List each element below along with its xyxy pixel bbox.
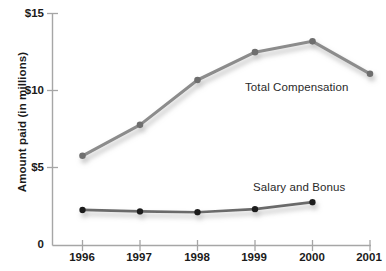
data-point bbox=[137, 122, 144, 129]
data-point bbox=[79, 207, 85, 213]
series-line-total-compensation bbox=[83, 41, 371, 155]
series-salary-and-bonus bbox=[79, 199, 315, 215]
data-point bbox=[309, 38, 316, 45]
data-point bbox=[137, 208, 143, 214]
series-total-compensation bbox=[79, 38, 373, 159]
data-point bbox=[367, 71, 374, 78]
line-chart: Amount paid (in millions) $15 $10 $5 0 1… bbox=[0, 0, 386, 271]
data-point bbox=[194, 209, 200, 215]
data-point bbox=[309, 199, 315, 205]
series-markers-total-compensation bbox=[79, 38, 373, 159]
data-point bbox=[252, 49, 259, 56]
data-point bbox=[194, 77, 201, 84]
data-point bbox=[252, 206, 258, 212]
data-point bbox=[79, 152, 86, 159]
plot-area bbox=[0, 0, 386, 271]
